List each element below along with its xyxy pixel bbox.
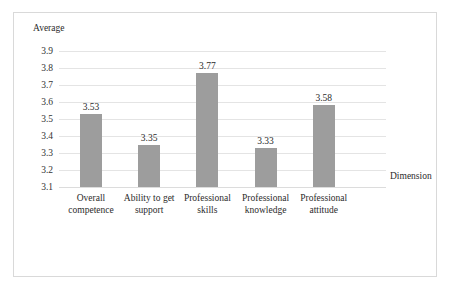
chart-figure: Average Dimension 3.93.83.73.63.53.43.33… [13, 12, 437, 277]
bar-value-label: 3.35 [141, 133, 158, 143]
y-axis-tick-label: 3.4 [41, 131, 53, 141]
bar-value-label: 3.33 [257, 136, 274, 146]
y-axis-tick-label: 3.1 [41, 182, 53, 192]
gridline [59, 68, 386, 69]
gridline [59, 136, 386, 137]
gridline [59, 119, 386, 120]
bar-value-label: 3.77 [199, 61, 216, 71]
y-axis-tick-label: 3.7 [41, 80, 53, 90]
gridline [59, 187, 386, 188]
bar[interactable]: 3.53Overallcompetence [80, 114, 102, 187]
y-axis-title: Average [33, 23, 64, 33]
y-axis-tick-label: 3.6 [41, 97, 53, 107]
bar[interactable]: 3.33Professionalknowledge [255, 148, 277, 187]
plot-area: 3.93.83.73.63.53.43.33.23.1 3.53Overallc… [59, 51, 386, 187]
gridline [59, 102, 386, 103]
gridline [59, 85, 386, 86]
gridline [59, 153, 386, 154]
bar[interactable]: 3.77Professionalskills [196, 73, 218, 187]
y-axis-tick-label: 3.3 [41, 148, 53, 158]
bar-value-label: 3.58 [315, 93, 332, 103]
bar[interactable]: 3.35Ability to getsupport [138, 145, 160, 188]
bar-value-label: 3.53 [83, 102, 100, 112]
bar[interactable]: 3.58Professionalattitude [313, 105, 335, 187]
x-axis-title: Dimension [390, 171, 432, 181]
x-axis-category-label-line: attitude [285, 204, 363, 216]
gridline [59, 170, 386, 171]
y-axis-tick-label: 3.8 [41, 63, 53, 73]
y-axis-tick-label: 3.2 [41, 165, 53, 175]
x-axis-category-label-line: Professional [285, 192, 363, 204]
y-axis-tick-label: 3.5 [41, 114, 53, 124]
x-axis-category-label: Professionalattitude [285, 192, 363, 216]
gridline [59, 51, 386, 52]
y-axis-tick-label: 3.9 [41, 46, 53, 56]
